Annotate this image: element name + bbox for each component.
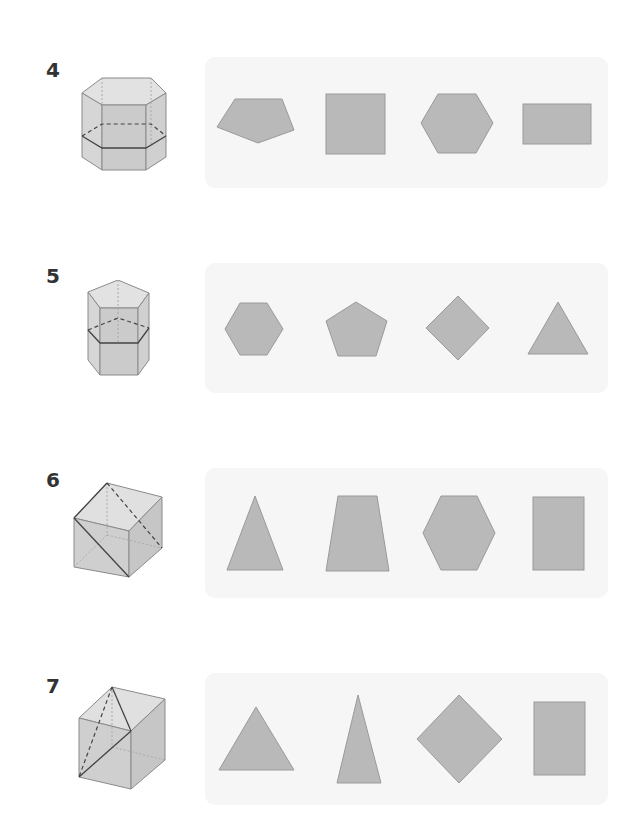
option-hexagon[interactable] xyxy=(421,94,493,153)
answer-options-panel xyxy=(205,673,608,805)
option-square[interactable] xyxy=(326,94,385,154)
option-hexagon[interactable] xyxy=(225,303,283,355)
option-rectangle[interactable] xyxy=(534,702,585,775)
option-pentagon[interactable] xyxy=(326,302,387,356)
option-square-rotated[interactable] xyxy=(417,695,502,783)
answer-options-panel xyxy=(205,263,608,393)
option-triangle[interactable] xyxy=(528,302,588,354)
option-pentagon[interactable] xyxy=(217,99,294,143)
option-triangle[interactable] xyxy=(219,707,294,770)
problem-number: 4 xyxy=(46,60,60,80)
cube-diagonal-cut-icon xyxy=(70,480,170,580)
pentagonal-prism-icon xyxy=(70,280,170,380)
option-rectangle[interactable] xyxy=(533,497,584,570)
answer-options-panel xyxy=(205,57,608,188)
hexagonal-prism-icon xyxy=(70,75,170,175)
problem-number: 6 xyxy=(46,470,60,490)
answer-options-panel xyxy=(205,468,608,598)
problem-number: 7 xyxy=(46,676,60,696)
option-hexagon[interactable] xyxy=(423,496,495,570)
problem-number: 5 xyxy=(46,266,60,286)
option-square-rotated[interactable] xyxy=(426,296,489,360)
option-triangle[interactable] xyxy=(227,496,283,570)
option-rectangle[interactable] xyxy=(523,104,591,144)
option-narrow-triangle[interactable] xyxy=(337,695,381,783)
option-trapezoid[interactable] xyxy=(326,496,389,571)
cube-corner-cut-icon xyxy=(70,685,170,795)
